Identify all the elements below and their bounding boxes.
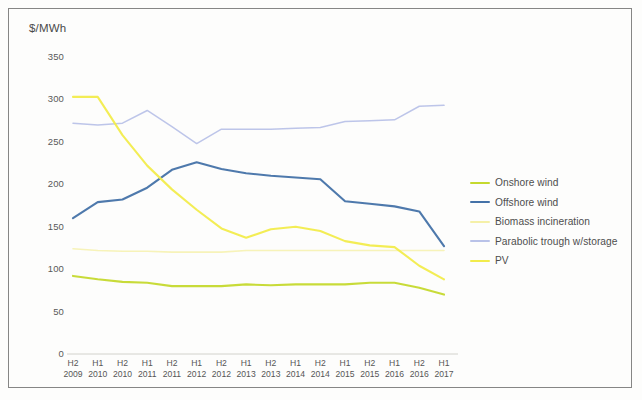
series-line-onshore-wind <box>73 276 444 295</box>
scanned-page: $/MWh 050100150200250300350 H22009H12010… <box>0 0 642 400</box>
legend-swatch-icon <box>470 260 490 262</box>
x-tick-year: 2017 <box>424 369 464 380</box>
legend-label: Parabolic trough w/storage <box>495 236 618 247</box>
legend-swatch-icon <box>470 221 490 223</box>
legend-label: Onshore wind <box>495 177 558 188</box>
x-tick-h1-2017: H12017 <box>424 358 464 379</box>
legend-item-offshore-wind[interactable]: Offshore wind <box>470 193 638 213</box>
legend-label: Biomass incineration <box>495 216 590 227</box>
x-tick-half: H1 <box>424 358 464 369</box>
legend-item-pv[interactable]: PV <box>470 251 638 271</box>
series-line-biomass-incineration <box>73 249 444 252</box>
chart-legend: Onshore windOffshore windBiomass inciner… <box>470 173 638 271</box>
series-line-parabolic-trough-w-storage <box>73 105 444 143</box>
legend-label: Offshore wind <box>495 197 558 208</box>
legend-item-biomass-incineration[interactable]: Biomass incineration <box>470 212 638 232</box>
legend-swatch-icon <box>470 182 490 184</box>
line-chart: $/MWh 050100150200250300350 H22009H12010… <box>0 0 642 400</box>
legend-swatch-icon <box>470 201 490 203</box>
legend-label: PV <box>495 255 509 266</box>
legend-item-parabolic-trough-w-storage[interactable]: Parabolic trough w/storage <box>470 232 638 252</box>
legend-item-onshore-wind[interactable]: Onshore wind <box>470 173 638 193</box>
legend-swatch-icon <box>470 240 490 242</box>
